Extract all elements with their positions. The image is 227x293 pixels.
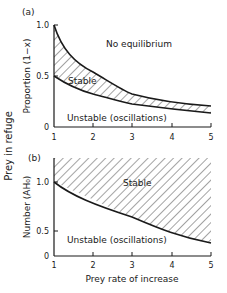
panel-a-ytick-05: 0.5 [36,72,49,81]
panel-b-xtick-5: 5 [208,261,213,270]
panel-b: (b) Number (AH₀) 1.0 0.5 0 1 2 3 4 5 Sta… [22,153,214,284]
panel-a-tag: (a) [22,7,35,17]
x-axis-label: Prey rate of increase [85,274,179,284]
panel-b-ytick-1: 1.0 [36,178,49,187]
panel-a: (a) Proportion (1−x) 1.0 0.5 0 1 2 3 4 5… [22,7,214,142]
shared-y-axis-label: Prey in refuge [3,111,14,181]
panel-b-tag: (b) [28,153,41,163]
panel-b-stable-region [54,158,211,243]
panel-a-stable-label: Stable [68,76,97,86]
panel-a-unstable-label: Unstable (oscillations) [67,113,167,123]
panel-a-ytick-1: 1.0 [36,21,49,30]
panel-b-xtick-3: 3 [129,261,134,270]
panel-a-xtick-5: 5 [208,133,213,142]
panel-a-xtick-1: 1 [51,133,56,142]
panel-b-ytick-0: 0 [44,252,49,261]
panel-b-xtick-4: 4 [169,261,174,270]
panel-a-no-equilibrium-label: No equilibrium [106,39,172,49]
panel-b-y-axis-label: Number (AH₀) [22,176,32,239]
panel-b-xtick-2: 2 [90,261,95,270]
panel-a-y-axis-label: Proportion (1−x) [22,39,32,114]
panel-a-ytick-0: 0 [44,123,49,132]
figure: Prey in refuge (a) Proportion (1−x) 1.0 … [0,0,227,293]
panel-b-xtick-1: 1 [51,261,56,270]
panel-b-unstable-label: Unstable (oscillations) [67,235,167,245]
panel-a-xtick-4: 4 [169,133,174,142]
panel-a-xtick-3: 3 [129,133,134,142]
panel-a-xtick-2: 2 [90,133,95,142]
panel-b-ytick-05: 0.5 [36,227,49,236]
panel-b-stable-label: Stable [123,178,152,188]
